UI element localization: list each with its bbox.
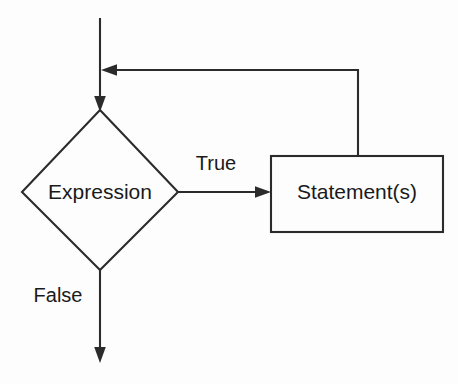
entry-arrow xyxy=(94,18,106,112)
decision-node-expression: Expression xyxy=(22,110,178,270)
loop-back-arrow xyxy=(101,64,358,156)
true-branch-arrowhead-icon xyxy=(255,186,271,198)
loop-back-arrowhead-icon xyxy=(101,64,117,76)
flowchart-diagram: Expression True Statement(s) False xyxy=(0,0,458,384)
false-branch-arrow: False xyxy=(34,270,106,363)
false-branch-arrowhead-icon xyxy=(94,347,106,363)
process-node-statements: Statement(s) xyxy=(271,156,443,232)
true-branch-label: True xyxy=(196,152,236,174)
decision-node-label: Expression xyxy=(48,180,152,203)
process-node-label: Statement(s) xyxy=(297,180,417,203)
true-branch-arrow: True xyxy=(178,152,271,198)
flowchart-canvas: Expression True Statement(s) False xyxy=(0,0,458,384)
loop-back-path xyxy=(110,70,358,156)
false-branch-label: False xyxy=(34,284,83,306)
